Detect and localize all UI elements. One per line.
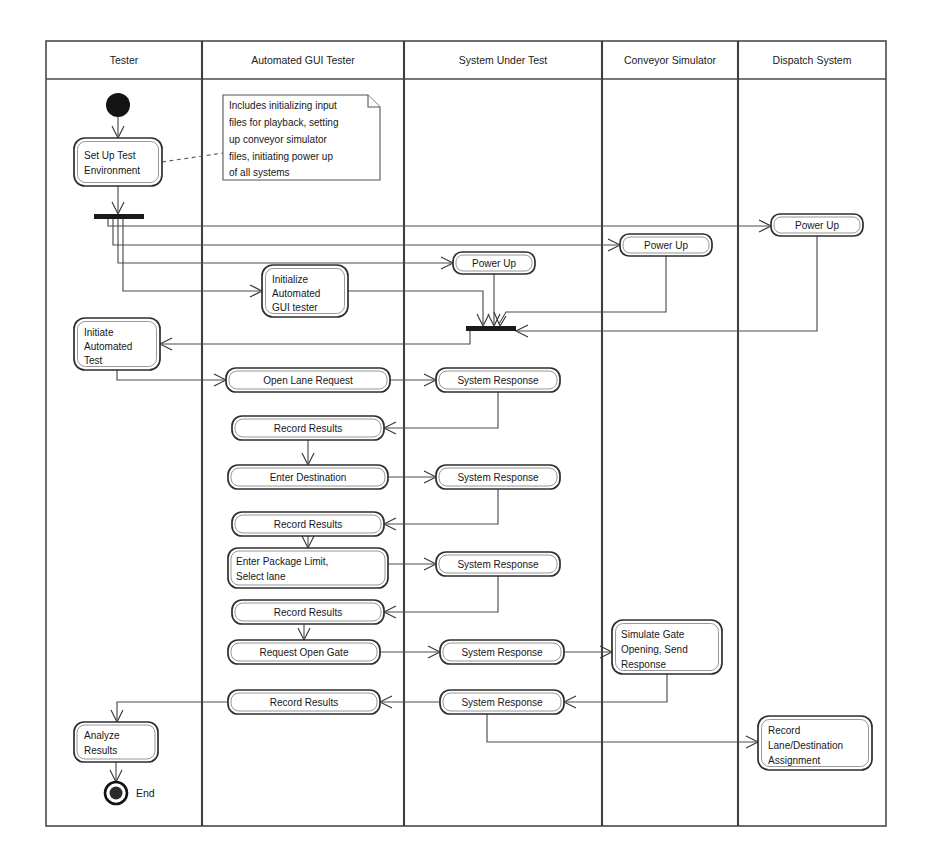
edge-open-lane-to-response1	[390, 374, 436, 386]
action-open-lane-request[interactable]: Open Lane Request	[226, 368, 390, 392]
edge-response2-to-record2	[384, 489, 498, 530]
action-label-line-1: Set Up Test	[84, 150, 136, 161]
action-label: System Response	[457, 375, 539, 386]
action-record-results-1[interactable]: Record Results	[232, 416, 384, 440]
edge-request-gate-to-response4	[380, 646, 440, 658]
action-power-up-sut[interactable]: Power Up	[453, 252, 535, 274]
note-line-3: up conveyor simulator	[229, 134, 327, 145]
action-label: Enter Destination	[270, 472, 347, 483]
note-setup: Includes initializing input files for pl…	[223, 95, 380, 180]
edge-analyze-to-end	[110, 762, 122, 782]
note-line-1: Includes initializing input	[229, 100, 337, 111]
edge-response3-to-record3	[384, 576, 498, 618]
action-enter-destination[interactable]: Enter Destination	[228, 465, 388, 489]
action-label-line-3: GUI tester	[272, 302, 318, 313]
action-label: System Response	[461, 647, 543, 658]
action-system-response-1[interactable]: System Response	[436, 368, 560, 392]
action-label: Request Open Gate	[260, 647, 349, 658]
edge-setup-to-fork	[112, 186, 124, 214]
action-initialize-automated-gui-tester[interactable]: Initialize Automated GUI tester	[262, 265, 348, 317]
action-label-line-1: Record	[768, 725, 800, 736]
edge-response5-to-record4	[380, 696, 440, 708]
lane-header-conveyor-simulator: Conveyor Simulator	[624, 54, 717, 66]
action-label-line-1: Simulate Gate	[621, 629, 685, 640]
action-initiate-automated-test[interactable]: Initiate Automated Test	[74, 318, 160, 370]
action-label-line-2: Select lane	[236, 571, 286, 582]
initial-node	[106, 93, 130, 117]
lane-header-dispatch-system: Dispatch System	[773, 54, 852, 66]
action-label-line-1: Initiate	[84, 327, 114, 338]
action-label: Open Lane Request	[263, 375, 353, 386]
uml-activity-diagram: Tester Automated GUI Tester System Under…	[0, 0, 930, 861]
action-record-results-2[interactable]: Record Results	[232, 512, 384, 536]
action-label-line-2: Automated	[84, 341, 132, 352]
action-analyze-results[interactable]: Analyze Results	[74, 722, 158, 762]
action-label: Power Up	[644, 240, 688, 251]
edge-package-limit-to-response3	[388, 558, 436, 570]
edge-initiate-to-open-lane	[117, 370, 226, 386]
edge-response5-to-record-lane	[487, 714, 758, 748]
action-label: System Response	[457, 559, 539, 570]
action-label-line-1: Initialize	[272, 274, 309, 285]
edge-start-to-setup	[112, 117, 124, 138]
edge-response4-to-simulate-gate	[564, 646, 612, 658]
lane-header-system-under-test: System Under Test	[459, 54, 548, 66]
action-label-line-1: Enter Package Limit,	[236, 556, 328, 567]
action-power-up-conveyor[interactable]: Power Up	[620, 234, 712, 256]
diagram-canvas: Tester Automated GUI Tester System Under…	[0, 0, 930, 861]
action-label: Power Up	[795, 220, 839, 231]
action-enter-package-limit[interactable]: Enter Package Limit, Select lane	[228, 548, 388, 588]
action-label: Power Up	[472, 258, 516, 269]
action-label-line-3: Test	[84, 355, 103, 366]
edge-record3-to-request-gate	[298, 624, 310, 640]
action-system-response-2[interactable]: System Response	[436, 465, 560, 489]
action-label-line-2: Automated	[272, 288, 320, 299]
edge-record4-to-analyze	[111, 702, 228, 722]
edge-fork-to-power-up-conveyor	[113, 219, 620, 251]
final-node: End	[105, 782, 155, 804]
join-bar	[466, 326, 516, 331]
action-simulate-gate-opening[interactable]: Simulate Gate Opening, Send Response	[612, 620, 722, 674]
action-record-lane-destination[interactable]: Record Lane/Destination Assignment	[758, 716, 872, 770]
edge-record1-to-enter-destination	[302, 440, 314, 465]
final-node-label: End	[136, 787, 155, 799]
action-system-response-5[interactable]: System Response	[440, 690, 564, 714]
note-line-5: of all systems	[229, 167, 290, 178]
action-label: Record Results	[274, 423, 342, 434]
edge-simulate-gate-to-response5	[564, 674, 667, 708]
edge-setup-to-note	[162, 153, 223, 162]
action-label-line-2: Opening, Send	[621, 644, 688, 655]
edge-enter-destination-to-response2	[388, 471, 436, 483]
action-label: Record Results	[274, 519, 342, 530]
action-label-line-1: Analyze	[84, 730, 120, 741]
action-label-line-3: Assignment	[768, 755, 820, 766]
action-set-up-test-environment[interactable]: Set Up Test Environment	[74, 138, 162, 186]
action-system-response-3[interactable]: System Response	[436, 552, 560, 576]
edge-fork-to-initialize-gui	[123, 219, 262, 297]
control-flows	[108, 117, 817, 782]
lane-header-tester: Tester	[110, 54, 139, 66]
edge-record2-to-package-limit	[302, 536, 314, 548]
edge-initialize-gui-to-join	[348, 291, 489, 326]
action-label-line-2: Environment	[84, 165, 140, 176]
edge-response1-to-record1	[384, 392, 498, 434]
action-label: Record Results	[274, 607, 342, 618]
action-label: System Response	[461, 697, 543, 708]
edge-power-up-sut-to-join	[488, 274, 500, 326]
edge-fork-to-power-up-dispatch	[108, 219, 771, 232]
action-label-line-2: Lane/Destination	[768, 740, 843, 751]
action-label: Record Results	[270, 697, 338, 708]
edge-join-to-initiate-test	[160, 331, 470, 350]
action-record-results-3[interactable]: Record Results	[232, 600, 384, 624]
note-line-4: files, initiating power up	[229, 151, 333, 162]
action-record-results-4[interactable]: Record Results	[228, 690, 380, 714]
action-power-up-dispatch[interactable]: Power Up	[771, 214, 863, 236]
fork-bar	[94, 214, 144, 219]
action-label: System Response	[457, 472, 539, 483]
action-label-line-2: Results	[84, 745, 117, 756]
lane-header-automated-gui-tester: Automated GUI Tester	[251, 54, 355, 66]
action-request-open-gate[interactable]: Request Open Gate	[228, 640, 380, 664]
action-label-line-3: Response	[621, 659, 666, 670]
action-system-response-4[interactable]: System Response	[440, 640, 564, 664]
lane-headers: Tester Automated GUI Tester System Under…	[110, 54, 852, 66]
